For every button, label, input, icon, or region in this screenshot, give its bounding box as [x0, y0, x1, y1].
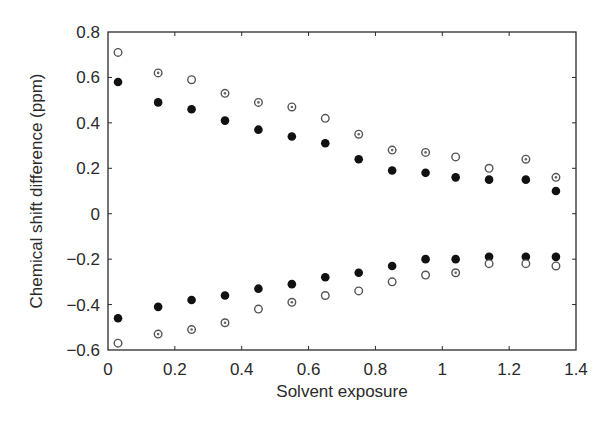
open-circle-marker [114, 49, 122, 57]
x-axis-ticks: 00.20.40.60.811.21.4 [103, 32, 588, 379]
data-points [114, 49, 561, 347]
filled-circle-marker [288, 280, 297, 289]
open-circle-marker [552, 262, 560, 270]
marker-center-dot [424, 151, 427, 154]
y-axis-ticks: −0.6−0.4−0.200.20.40.60.8 [66, 23, 576, 360]
filled-circle-marker [187, 105, 196, 114]
y-tick-label: −0.6 [66, 341, 100, 360]
filled-circle-marker [522, 175, 531, 184]
marker-center-dot [291, 301, 294, 304]
y-tick-label: 0.8 [76, 23, 100, 42]
x-tick-label: 0.6 [297, 360, 321, 379]
filled-circle-marker [288, 132, 297, 141]
y-tick-label: −0.4 [66, 296, 100, 315]
open-circle-marker [388, 278, 396, 286]
x-axis-title: Solvent exposure [276, 382, 407, 401]
filled-circle-marker [421, 255, 430, 264]
filled-circle-marker [114, 314, 123, 323]
filled-circle-marker [552, 187, 561, 196]
marker-center-dot [257, 101, 260, 104]
y-tick-label: 0.6 [76, 68, 100, 87]
filled-circle-marker [254, 125, 263, 134]
filled-circle-marker [354, 268, 363, 277]
marker-center-dot [454, 271, 457, 274]
y-tick-label: 0 [91, 205, 100, 224]
marker-center-dot [357, 133, 360, 136]
filled-circle-marker [388, 262, 397, 271]
open-circle-marker [321, 292, 329, 300]
filled-circle-marker [485, 175, 494, 184]
filled-circle-marker [254, 284, 263, 293]
open-circle-marker [188, 76, 196, 84]
x-tick-label: 1.4 [564, 360, 588, 379]
filled-circle-marker [114, 78, 123, 87]
open-circle-marker [422, 271, 430, 279]
filled-circle-marker [388, 166, 397, 175]
filled-circle-marker [221, 291, 230, 300]
open-circle-marker [255, 305, 263, 313]
filled-circle-marker [187, 296, 196, 305]
marker-center-dot [157, 333, 160, 336]
filled-circle-marker [552, 253, 561, 262]
open-circle-marker [452, 153, 460, 161]
x-tick-label: 0.4 [230, 360, 254, 379]
x-tick-label: 1.2 [497, 360, 521, 379]
plot-frame [108, 32, 576, 350]
y-tick-label: 0.2 [76, 159, 100, 178]
marker-center-dot [190, 328, 193, 331]
filled-circle-marker [354, 155, 363, 164]
filled-circle-marker [221, 116, 230, 125]
filled-circle-marker [321, 139, 330, 148]
marker-center-dot [391, 149, 394, 152]
y-axis-title: Chemical shift difference (ppm) [27, 74, 46, 309]
filled-circle-marker [451, 173, 460, 182]
filled-circle-marker [321, 273, 330, 282]
open-circle-marker [355, 287, 363, 295]
x-tick-label: 0.8 [364, 360, 388, 379]
x-tick-label: 0 [103, 360, 112, 379]
open-circle-marker [485, 260, 493, 268]
filled-circle-marker [421, 169, 430, 178]
open-circle-marker [321, 115, 329, 123]
open-circle-marker [522, 260, 530, 268]
filled-circle-marker [451, 255, 460, 264]
y-tick-label: −0.2 [66, 250, 100, 269]
open-circle-marker [114, 339, 122, 347]
marker-center-dot [224, 92, 227, 95]
scatter-chart: 00.20.40.60.811.21.4 −0.6−0.4−0.200.20.4… [0, 0, 611, 421]
marker-center-dot [555, 176, 558, 179]
marker-center-dot [291, 106, 294, 109]
marker-center-dot [157, 72, 160, 75]
filled-circle-marker [154, 98, 163, 107]
y-tick-label: 0.4 [76, 114, 100, 133]
x-tick-label: 0.2 [163, 360, 187, 379]
open-circle-marker [485, 164, 493, 172]
filled-circle-marker [154, 303, 163, 312]
x-tick-label: 1 [438, 360, 447, 379]
marker-center-dot [525, 158, 528, 161]
marker-center-dot [224, 321, 227, 324]
